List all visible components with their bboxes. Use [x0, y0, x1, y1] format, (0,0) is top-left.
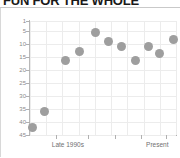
scatter-point — [91, 28, 100, 37]
x-axis-tick-label: Late 1990s — [52, 141, 84, 148]
scatter-point — [117, 42, 126, 51]
gridline-horizontal — [30, 96, 176, 97]
x-axis-tick — [141, 135, 142, 139]
y-axis-tick — [26, 135, 30, 136]
y-axis-tick-label: 30 — [19, 93, 26, 99]
gridline-horizontal — [30, 135, 176, 136]
figure-panel: 151015202530354045 FIFA ranking Late 199… — [0, 8, 179, 157]
gridline-horizontal — [30, 57, 176, 58]
y-axis-tick-label: 10 — [19, 41, 26, 47]
gridline-horizontal — [30, 44, 176, 45]
scatter-point — [169, 35, 178, 44]
gridline-horizontal — [30, 31, 176, 32]
scatter-point — [28, 123, 37, 132]
plot-area — [30, 21, 176, 135]
gridline-vertical — [46, 21, 47, 135]
x-axis-tick — [88, 135, 89, 139]
y-axis-tick-label: 45 — [19, 132, 26, 138]
gridline-vertical — [30, 21, 31, 135]
scatter-point — [75, 47, 84, 56]
x-axis-tick-label: Present — [146, 141, 168, 148]
y-axis-tick-label: 40 — [19, 119, 26, 125]
y-axis-tick — [26, 96, 30, 97]
gridline-vertical — [127, 21, 128, 135]
x-axis-tick — [115, 135, 116, 139]
scatter-point — [40, 107, 49, 116]
y-axis-tick — [26, 109, 30, 110]
y-axis-tick — [26, 70, 30, 71]
y-axis-tick — [26, 83, 30, 84]
scatter-point — [61, 56, 70, 65]
gridline-vertical — [160, 21, 161, 135]
gridline-horizontal — [30, 122, 176, 123]
y-axis-tick — [26, 122, 30, 123]
scatter-point — [144, 42, 153, 51]
y-axis-tick-label: 15 — [19, 54, 26, 60]
y-axis-tick-label: 20 — [19, 67, 26, 73]
y-axis-tick — [26, 57, 30, 58]
y-axis-tick-label: 25 — [19, 80, 26, 86]
x-axis-tick — [56, 135, 57, 139]
gridline-vertical — [144, 21, 145, 135]
gridline-horizontal — [30, 21, 176, 22]
gridline-horizontal — [30, 70, 176, 71]
gridline-vertical — [95, 21, 96, 135]
scatter-point — [131, 56, 140, 65]
gridline-vertical — [62, 21, 63, 135]
y-axis-tick — [26, 31, 30, 32]
chart-figure-root: FUN FOR THE WHOLE 151015202530354045 FIF… — [0, 0, 180, 158]
y-axis-tick-label: 35 — [19, 106, 26, 112]
gridline-horizontal — [30, 83, 176, 84]
gridline-vertical — [79, 21, 80, 135]
y-axis-tick — [26, 44, 30, 45]
gridline-horizontal — [30, 109, 176, 110]
y-axis-tick — [26, 21, 30, 22]
y-axis-tick-labels: 151015202530354045 — [1, 8, 26, 158]
x-axis-tick — [166, 135, 167, 139]
scatter-point — [155, 49, 164, 58]
